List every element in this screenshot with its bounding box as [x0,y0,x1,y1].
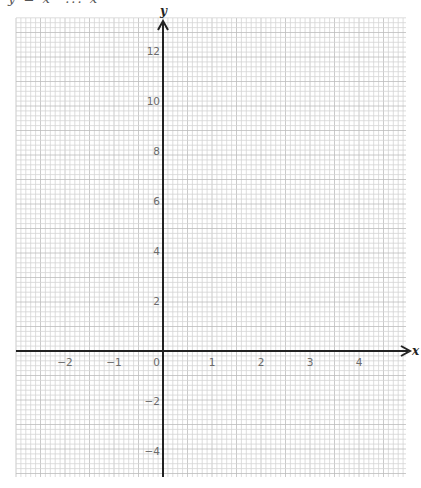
x-tick-label: −2 [57,356,72,368]
y-tick-label: 12 [147,45,160,57]
origin-label: 0 [153,356,160,368]
y-tick-label: 10 [147,95,160,107]
x-tick-label: −1 [106,356,121,368]
graph-paper-chart: −2−11234 −4−224681012 0 x y [0,0,421,488]
y-tick-label: −2 [145,395,160,407]
x-axis-label: x [411,344,420,358]
x-tick-labels: −2−11234 [57,356,362,368]
x-tick-label: 3 [307,356,314,368]
y-tick-label: −4 [145,445,161,457]
y-tick-label: 6 [153,195,160,207]
x-tick-label: 2 [258,356,265,368]
y-tick-label: 8 [153,145,160,157]
x-tick-label: 4 [356,356,363,368]
y-tick-label: 2 [153,295,160,307]
y-axis-label: y [159,4,168,18]
x-tick-label: 1 [209,356,216,368]
grid-lines [16,18,406,477]
y-tick-label: 4 [153,245,160,257]
y-tick-labels: −4−224681012 [145,45,161,457]
